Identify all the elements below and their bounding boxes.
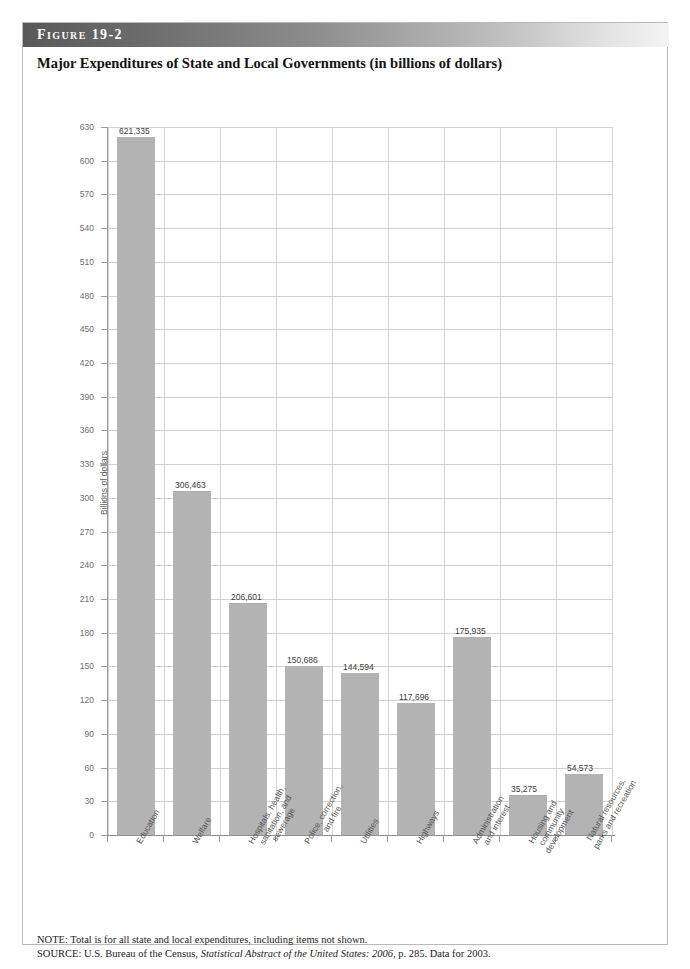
y-axis-tick-label: 150 — [60, 661, 94, 671]
bar — [453, 637, 491, 835]
y-axis-tick — [101, 397, 108, 398]
source-suffix: , p. 285. Data for 2003. — [393, 948, 491, 959]
bar-value-label: 150,686 — [287, 655, 318, 665]
x-axis-tick — [331, 835, 332, 842]
source-text: SOURCE: U.S. Bureau of the Census, Stati… — [37, 947, 657, 961]
gridline-horizontal — [108, 296, 612, 297]
x-axis-tick — [107, 835, 108, 842]
bar — [173, 491, 211, 835]
y-axis-tick-label: 450 — [60, 324, 94, 334]
gridline-horizontal — [108, 397, 612, 398]
gridline-horizontal — [108, 161, 612, 162]
y-axis-tick — [101, 734, 108, 735]
x-axis-tick — [163, 835, 164, 842]
gridline-horizontal — [108, 363, 612, 364]
gridline-horizontal — [108, 194, 612, 195]
y-axis-tick — [101, 161, 108, 162]
y-axis-tick-label: 510 — [60, 257, 94, 267]
y-axis-tick — [101, 700, 108, 701]
gridline-vertical — [220, 127, 221, 835]
gridline-vertical — [388, 127, 389, 835]
y-axis-tick — [101, 464, 108, 465]
bar-value-label: 35,275 — [511, 784, 537, 794]
gridline-vertical — [164, 127, 165, 835]
gridline-vertical — [444, 127, 445, 835]
y-axis-tick — [101, 599, 108, 600]
bar — [341, 673, 379, 835]
y-axis-tick — [101, 296, 108, 297]
y-axis-tick-label: 120 — [60, 695, 94, 705]
y-axis-tick-label: 0 — [60, 830, 94, 840]
y-axis-tick-label: 390 — [60, 392, 94, 402]
y-axis-tick-label: 210 — [60, 594, 94, 604]
figure-number-label: Figure 19-2 — [37, 27, 123, 43]
y-axis-tick — [101, 127, 108, 128]
bar-value-label: 144,594 — [343, 662, 374, 672]
y-axis-tick-label: 30 — [60, 796, 94, 806]
y-axis-tick-label: 420 — [60, 358, 94, 368]
y-axis-tick — [101, 329, 108, 330]
y-axis-tick-label: 540 — [60, 223, 94, 233]
bar-chart: Billions of dollars 63060057054051048045… — [23, 81, 669, 891]
y-axis-tick — [101, 228, 108, 229]
x-axis-tick — [443, 835, 444, 842]
y-axis-tick-label: 300 — [60, 493, 94, 503]
note-text: NOTE: Total is for all state and local e… — [37, 933, 657, 947]
gridline-horizontal — [108, 228, 612, 229]
x-axis-tick — [499, 835, 500, 842]
bar — [117, 137, 155, 835]
y-axis-tick — [101, 633, 108, 634]
y-axis-tick — [101, 768, 108, 769]
gridline-vertical — [108, 127, 109, 835]
y-axis-tick-label: 480 — [60, 291, 94, 301]
x-axis-tick — [611, 835, 612, 842]
bar-value-label: 117,696 — [399, 692, 429, 702]
y-axis-tick-label: 600 — [60, 156, 94, 166]
gridline-horizontal — [108, 464, 612, 465]
x-axis-tick — [387, 835, 388, 842]
gridline-vertical — [500, 127, 501, 835]
gridline-horizontal — [108, 262, 612, 263]
y-axis-tick — [101, 565, 108, 566]
y-axis-tick-label: 330 — [60, 459, 94, 469]
gridline-horizontal — [108, 430, 612, 431]
y-axis-tick — [101, 430, 108, 431]
gridline-vertical — [612, 127, 613, 835]
gridline-horizontal — [108, 329, 612, 330]
figure-notes: NOTE: Total is for all state and local e… — [37, 933, 657, 962]
y-axis-tick — [101, 801, 108, 802]
y-axis-tick-label: 360 — [60, 425, 94, 435]
y-axis-tick-label: 60 — [60, 763, 94, 773]
y-axis-tick-label: 180 — [60, 628, 94, 638]
source-prefix: SOURCE: U.S. Bureau of the Census, — [37, 948, 201, 959]
bar-value-label: 175,935 — [455, 626, 486, 636]
figure-box: Figure 19-2 Major Expenditures of State … — [22, 22, 668, 945]
y-axis-tick — [101, 363, 108, 364]
y-axis-tick — [101, 498, 108, 499]
y-axis-tick — [101, 532, 108, 533]
figure-page: Figure 19-2 Major Expenditures of State … — [0, 0, 690, 969]
y-axis-tick-label: 90 — [60, 729, 94, 739]
source-title: Statistical Abstract of the United State… — [201, 948, 393, 959]
bar-value-label: 621,335 — [119, 126, 150, 136]
gridline-vertical — [332, 127, 333, 835]
y-axis-tick — [101, 666, 108, 667]
figure-title: Major Expenditures of State and Local Go… — [37, 55, 653, 72]
bar-value-label: 306,463 — [175, 480, 206, 490]
gridline-vertical — [556, 127, 557, 835]
x-axis-tick — [219, 835, 220, 842]
y-axis-tick-label: 570 — [60, 189, 94, 199]
bar-value-label: 54,573 — [567, 763, 593, 773]
bar — [229, 603, 267, 835]
bar-value-label: 206,601 — [231, 592, 262, 602]
plot-area: Billions of dollars 63060057054051048045… — [107, 127, 612, 835]
gridline-horizontal — [108, 127, 612, 128]
y-axis-tick — [101, 262, 108, 263]
y-axis-tick-label: 630 — [60, 122, 94, 132]
figure-header-band: Figure 19-2 — [23, 23, 669, 47]
gridline-vertical — [276, 127, 277, 835]
y-axis-tick-label: 270 — [60, 527, 94, 537]
y-axis-tick-label: 240 — [60, 560, 94, 570]
y-axis-tick — [101, 194, 108, 195]
